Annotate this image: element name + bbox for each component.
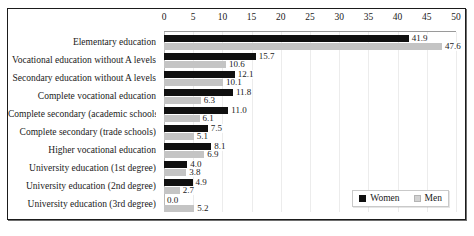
- x-tick-label: 50: [451, 11, 461, 23]
- plot-area: 41.947.615.710.612.110.111.86.311.06.17.…: [164, 31, 456, 212]
- category-label: Secondary education without A levels: [8, 69, 156, 87]
- category-label: Higher vocational education: [8, 141, 156, 159]
- bar-men[interactable]: [164, 97, 201, 104]
- x-tick-label: 35: [364, 11, 374, 23]
- bar-rows: 41.947.615.710.612.110.111.86.311.06.17.…: [164, 32, 456, 212]
- category-label: University education (1st degree): [8, 159, 156, 177]
- category-label: Elementary education: [8, 33, 156, 51]
- bar-value-label: 7.5: [210, 124, 223, 133]
- bar-row: 11.06.1: [164, 106, 456, 124]
- chart-legend[interactable]: WomenMen: [352, 190, 449, 207]
- bar-value-label: 10.6: [228, 60, 246, 69]
- x-tick-label: 10: [218, 11, 228, 23]
- bar-value-label: 47.6: [444, 42, 462, 51]
- bar-men[interactable]: [164, 205, 194, 212]
- bar-value-label: 0.0: [166, 196, 179, 205]
- bar-value-label: 2.7: [182, 186, 195, 195]
- bar-men[interactable]: [164, 43, 442, 50]
- legend-label: Women: [370, 193, 399, 204]
- bar-men[interactable]: [164, 79, 223, 86]
- bar-value-label: 4.9: [195, 178, 208, 187]
- x-tick-label: 25: [305, 11, 315, 23]
- bar-value-label: 15.7: [258, 52, 276, 61]
- legend-label: Men: [425, 193, 442, 204]
- bar-row: 15.710.6: [164, 52, 456, 70]
- bar-value-label: 5.2: [196, 204, 209, 213]
- legend-swatch: [414, 195, 421, 202]
- bar-value-label: 6.1: [202, 114, 215, 123]
- bar-men[interactable]: [164, 187, 180, 194]
- category-label: University education (2nd degree): [8, 177, 156, 195]
- bar-men[interactable]: [164, 151, 204, 158]
- bar-value-label: 5.1: [196, 132, 209, 141]
- x-tick-label: 40: [393, 11, 403, 23]
- bar-men[interactable]: [164, 61, 226, 68]
- x-tick-label: 45: [422, 11, 432, 23]
- category-label: Complete secondary (academic schools): [8, 105, 156, 123]
- bar-women[interactable]: [164, 35, 409, 42]
- category-label: Complete vocational education: [8, 87, 156, 105]
- bar-row: 41.947.6: [164, 34, 456, 52]
- bar-women[interactable]: [164, 89, 233, 96]
- bar-value-label: 6.3: [203, 96, 216, 105]
- legend-swatch: [359, 195, 366, 202]
- bar-women[interactable]: [164, 161, 187, 168]
- category-axis-labels: Elementary educationVocational education…: [8, 31, 160, 211]
- bar-women[interactable]: [164, 107, 228, 114]
- bar-row: 12.110.1: [164, 70, 456, 88]
- x-tick-label: 30: [334, 11, 344, 23]
- bar-row: 11.86.3: [164, 88, 456, 106]
- legend-item[interactable]: Men: [414, 193, 442, 204]
- bar-row: 7.55.1: [164, 124, 456, 142]
- category-label: University education (3rd degree): [8, 195, 156, 213]
- x-axis-top: 05101520253035404550: [8, 9, 465, 31]
- bar-men[interactable]: [164, 169, 186, 176]
- category-label: Vocational education without A levels: [8, 51, 156, 69]
- bar-value-label: 6.9: [206, 150, 219, 159]
- x-tick-label: 5: [191, 11, 196, 23]
- gridline: [456, 32, 457, 212]
- legend-item[interactable]: Women: [359, 193, 399, 204]
- bar-men[interactable]: [164, 133, 194, 140]
- bar-women[interactable]: [164, 143, 211, 150]
- bar-value-label: 10.1: [225, 78, 243, 87]
- bar-value-label: 41.9: [411, 34, 429, 43]
- bar-value-label: 11.8: [235, 88, 252, 97]
- bar-row: 8.16.9: [164, 142, 456, 160]
- chart-figure: 05101520253035404550 Elementary educatio…: [7, 8, 466, 220]
- x-tick-label: 0: [162, 11, 167, 23]
- bar-value-label: 11.0: [230, 106, 247, 115]
- category-label: Complete secondary (trade schools): [8, 123, 156, 141]
- chart-plot-wrapper: 05101520253035404550 Elementary educatio…: [8, 9, 465, 219]
- x-tick-label: 20: [276, 11, 286, 23]
- bar-women[interactable]: [164, 71, 235, 78]
- x-tick-label: 15: [247, 11, 257, 23]
- bar-row: 4.03.8: [164, 160, 456, 178]
- bar-men[interactable]: [164, 115, 200, 122]
- bar-value-label: 3.8: [188, 168, 201, 177]
